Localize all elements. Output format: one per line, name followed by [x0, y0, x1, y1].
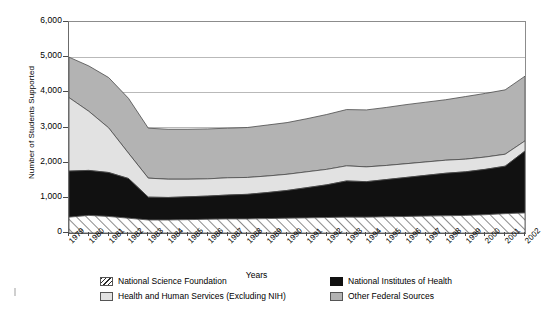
x-tick-mark-1987	[227, 232, 228, 236]
x-tick-mark-1999	[465, 232, 466, 236]
plot-area	[68, 21, 526, 234]
black-swatch-icon	[330, 277, 343, 286]
page-edge-mark-left	[14, 288, 16, 296]
y-tick-label-3000: 3,000	[16, 121, 62, 131]
y-tick-label-4000: 4,000	[16, 85, 62, 95]
x-tick-mark-1993	[346, 232, 347, 236]
hatch-swatch-icon	[100, 277, 113, 286]
legend-item-health-and-human-services: Health and Human Services (Excluding NIH…	[100, 291, 286, 301]
legend-item-national-institutes-of-health: National Institutes of Health	[330, 276, 452, 286]
stacked-area-series	[69, 22, 525, 233]
light-gray-swatch-icon	[100, 292, 113, 301]
legend-label-hhs: Health and Human Services (Excluding NIH…	[118, 291, 286, 301]
legend-label-nih: National Institutes of Health	[348, 276, 452, 286]
legend-item-national-science-foundation: National Science Foundation	[100, 276, 227, 286]
legend-label-nsf: National Science Foundation	[118, 276, 227, 286]
x-tick-mark-1981	[108, 232, 109, 236]
y-tick-label-0: 0	[16, 226, 62, 236]
x-tick-mark-1992	[326, 232, 327, 236]
y-tick-label-1000: 1,000	[16, 191, 62, 201]
y-tick-label-5000: 5,000	[16, 50, 62, 60]
y-tick-label-6000: 6,000	[16, 15, 62, 25]
x-tick-mark-1998	[445, 232, 446, 236]
legend-item-other-federal-sources: Other Federal Sources	[330, 291, 434, 301]
plot-inner	[69, 22, 525, 233]
chart-legend: National Science Foundation Health and H…	[0, 272, 539, 308]
legend-label-other: Other Federal Sources	[348, 291, 434, 301]
y-tick-label-2000: 2,000	[16, 156, 62, 166]
medium-gray-swatch-icon	[330, 292, 343, 301]
